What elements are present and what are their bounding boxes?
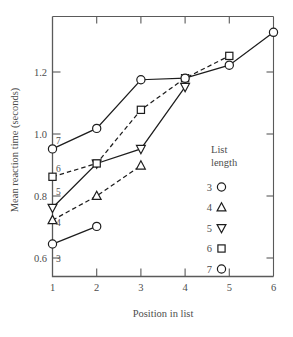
legend-label-6: 6 (207, 243, 212, 254)
legend: List length 34567 (207, 144, 238, 275)
data-point-4-2 (92, 191, 101, 199)
legend-entry-4: 4 (207, 202, 226, 213)
data-point-7-6 (269, 28, 277, 36)
data-point-3-1 (48, 240, 56, 248)
data-point-6-2 (93, 160, 100, 167)
y-axis-title: Mean reaction time (seconds) (9, 87, 21, 212)
legend-title-line-1: List (211, 144, 227, 155)
legend-circle-marker (217, 265, 225, 273)
data-point-6-1 (49, 173, 56, 180)
series-7 (48, 28, 277, 153)
y-tick-label-0: 0.6 (34, 253, 47, 264)
legend-label-5: 5 (207, 223, 212, 234)
chart-figure: 0.6 0.8 1.0 1.2 1 2 (0, 0, 293, 337)
series-line-6 (53, 56, 230, 177)
legend-title-line-2: length (211, 157, 238, 168)
x-tick-label-0: 1 (50, 282, 55, 293)
legend-circle-marker (217, 183, 225, 191)
x-tick-label-3: 4 (182, 282, 188, 293)
data-point-7-3 (137, 76, 145, 84)
series-layer (48, 28, 278, 248)
inline-tag-4: 4 (56, 218, 61, 228)
top-axis-ticks (97, 17, 230, 24)
x-tick-label-4: 5 (227, 282, 232, 293)
legend-entries: 34567 (207, 182, 226, 275)
legend-label-7: 7 (207, 264, 212, 275)
series-line-5 (53, 87, 186, 208)
legend-label-3: 3 (207, 182, 212, 193)
x-axis-tick-labels: 1 2 3 4 5 6 (50, 282, 276, 293)
data-point-3-2 (93, 222, 101, 230)
series-4 (48, 161, 145, 224)
y-tick-label-2: 1.0 (34, 129, 47, 140)
legend-entry-5: 5 (207, 223, 226, 234)
data-point-6-5 (226, 52, 233, 59)
data-point-7-5 (225, 61, 233, 69)
series-5 (48, 83, 189, 212)
legend-entry-6: 6 (207, 243, 225, 254)
series-line-3 (53, 226, 97, 244)
inline-tag-7: 7 (56, 136, 61, 146)
series-line-7 (53, 32, 274, 149)
right-axis-ticks (267, 72, 274, 258)
y-tick-label-1: 0.8 (34, 191, 47, 202)
inline-tag-3: 3 (56, 254, 61, 264)
inline-tag-5: 5 (56, 187, 61, 197)
axis-frame (53, 17, 274, 277)
legend-triangle-down-marker (217, 225, 226, 233)
legend-triangle-up-marker (217, 203, 226, 211)
x-axis-title: Position in list (133, 308, 194, 319)
legend-entry-7: 7 (207, 264, 226, 275)
data-point-4-3 (136, 161, 145, 169)
y-tick-label-3: 1.2 (34, 67, 47, 78)
legend-label-4: 4 (207, 202, 213, 213)
inline-tag-6: 6 (56, 164, 61, 174)
legend-entry-3: 3 (207, 182, 226, 193)
legend-square-marker (218, 245, 225, 252)
data-point-5-1 (48, 204, 57, 212)
data-point-6-3 (137, 106, 144, 113)
data-point-7-4 (181, 74, 189, 82)
data-point-7-2 (93, 124, 101, 132)
data-point-7-1 (48, 145, 56, 153)
x-tick-label-2: 3 (138, 282, 143, 293)
chart-svg: 0.6 0.8 1.0 1.2 1 2 (0, 0, 293, 337)
x-tick-label-1: 2 (94, 282, 99, 293)
x-tick-label-5: 6 (271, 282, 276, 293)
y-axis-tick-labels: 0.6 0.8 1.0 1.2 (34, 67, 47, 264)
axis-frame-path (53, 17, 274, 277)
